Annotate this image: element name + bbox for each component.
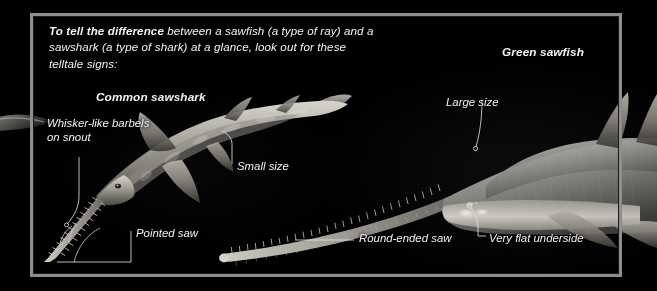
specimen-label-common-sawshark: Common sawshark bbox=[96, 90, 206, 104]
headline-lead: To tell the difference bbox=[49, 24, 164, 37]
callout-large-size: Large size bbox=[446, 96, 506, 110]
callout-whisker-like-barbels: Whisker-like barbels on snout bbox=[47, 117, 159, 145]
specimen-label-green-sawfish: Green sawfish bbox=[502, 45, 584, 59]
callout-small-size: Small size bbox=[237, 160, 289, 174]
callout-very-flat-underside: Very flat underside bbox=[489, 232, 599, 246]
background-fin-left bbox=[0, 114, 52, 131]
callout-pointed-saw: Pointed saw bbox=[136, 227, 216, 241]
headline: To tell the difference between a sawfish… bbox=[49, 23, 379, 72]
leader-whisker bbox=[67, 157, 79, 224]
infographic-figure: To tell the difference between a sawfish… bbox=[0, 0, 657, 291]
callout-round-ended-saw: Round-ended saw bbox=[359, 232, 469, 246]
